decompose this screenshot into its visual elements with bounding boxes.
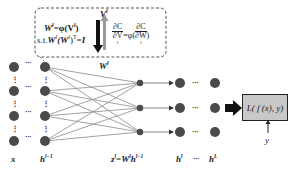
vertical-ellipsis: ⋮ (42, 125, 50, 133)
prev-layer-label: hl−1 (40, 154, 53, 164)
preactivation-nodes (137, 80, 143, 135)
horizontal-ellipsis: ··· (25, 133, 32, 141)
constraint-equation: Wl=φ(Vl) (44, 22, 79, 33)
loss-label: L( f (x), y) (247, 103, 283, 113)
activation-arrows (143, 83, 173, 132)
horizontal-ellipsis: ··· (192, 128, 199, 136)
vertical-ellipsis: ⋮ (42, 76, 50, 84)
horizontal-ellipsis: ··· (193, 155, 200, 163)
v-label: Vl (100, 8, 108, 19)
layer-l-label: hl (176, 154, 183, 164)
loss-arrow (225, 100, 242, 116)
horizontal-ellipsis: ··· (192, 79, 199, 87)
label-arrow (266, 120, 271, 133)
weight-edges (45, 67, 140, 141)
loss-box: L( f (x), y) (242, 94, 288, 121)
horizontal-ellipsis: ··· (25, 83, 32, 91)
output-layer-label: hL (209, 154, 217, 164)
horizontal-ellipsis: ··· (25, 59, 32, 67)
vertical-ellipsis: ⋮ (11, 125, 19, 133)
vertical-ellipsis: ⋮ (11, 100, 19, 108)
output-layer-nodes (210, 78, 220, 137)
horizontal-ellipsis: ··· (25, 108, 32, 116)
vertical-ellipsis: ⋮ (11, 76, 19, 84)
box-pointer-line (40, 57, 45, 62)
neural-network-diagram: ⋮ ⋮ ⋮ ⋮ ⋮ ⋮ ··· ··· ··· ··· ··· ··· ··· … (0, 0, 300, 169)
horizontal-ellipsis: ··· (192, 104, 199, 112)
vertical-ellipsis: ⋮ (42, 100, 50, 108)
layer-l-nodes (175, 78, 185, 137)
preactivation-equation: zl=Wlhl−1 (111, 154, 143, 164)
gradient-equation: ∂C∂Vl=φ(∂C∂Wl) (112, 23, 149, 50)
input-label: x (11, 155, 16, 164)
update-arrows (93, 14, 109, 53)
target-label: y (265, 136, 269, 145)
orthogonality-constraint: s.t.Wl(Wl)T=I (37, 34, 85, 45)
weight-label: Wl (99, 60, 109, 71)
